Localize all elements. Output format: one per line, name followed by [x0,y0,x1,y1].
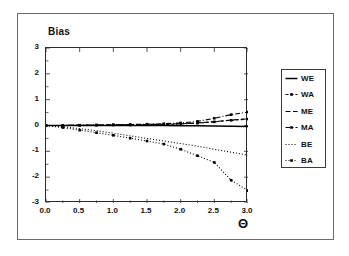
legend-item-we[interactable]: WE [282,70,325,87]
x-tick-label: 2.0 [167,207,193,215]
y-tick-label: 0 [23,121,39,129]
data-point-marker [213,161,216,164]
legend-swatch-me-icon [285,107,298,116]
data-point-marker [213,117,216,120]
data-point-marker [196,154,199,157]
plot-canvas [46,48,248,203]
legend-label: WA [301,90,314,99]
data-point-marker [129,123,132,126]
legend-item-ma[interactable]: MA [282,120,325,137]
data-point-marker [112,123,115,126]
legend-label: WE [301,74,314,83]
data-point-marker [163,143,166,146]
data-point-marker [230,179,233,182]
legend: WEWAMEMABEBA [281,69,326,168]
data-point-marker [95,124,98,127]
legend-item-be[interactable]: BE [282,136,325,153]
plot-area [45,47,247,202]
y-tick-label: 1 [23,95,39,103]
x-tick-label: 3.0 [234,207,260,215]
legend-item-wa[interactable]: WA [282,87,325,104]
data-point-marker [146,123,149,126]
x-tick-label: 0.5 [66,207,92,215]
legend-swatch-wa-icon [285,90,298,99]
y-tick-label: -1 [23,146,39,154]
series-line-ba [46,126,248,191]
legend-label: BA [301,156,313,165]
series-ba [46,124,248,192]
data-point-marker [46,124,47,127]
data-point-marker [179,122,182,125]
y-tick-label: 2 [23,69,39,77]
y-axis-title: Bias [48,26,70,37]
data-point-marker [163,122,166,125]
x-tick-label: 1.0 [99,207,125,215]
legend-item-ba[interactable]: BA [282,153,325,170]
chart-screenshot: Bias Θ 3210-1-2-3 0.00.51.01.52.02.53.0 … [0,0,349,256]
data-point-marker [129,137,132,140]
x-tick-label: 1.5 [133,207,159,215]
y-tick-label: -3 [23,198,39,206]
legend-swatch-be-icon [285,140,298,149]
legend-swatch-we-icon [285,74,298,83]
data-point-marker [78,129,81,132]
data-point-marker [230,113,233,116]
data-point-marker [62,126,65,129]
data-point-marker [196,120,199,123]
legend-item-me[interactable]: ME [282,103,325,120]
x-axis-title: Θ [238,216,248,231]
legend-swatch-ma-icon [285,123,298,132]
data-point-marker [78,124,81,127]
data-point-marker [247,118,248,121]
legend-label: ME [301,107,313,116]
legend-label: MA [301,123,314,132]
data-point-marker [146,140,149,143]
data-point-marker [112,134,115,137]
series-ma [46,111,248,127]
legend-label: BE [301,140,313,149]
y-tick-label: 3 [23,43,39,51]
legend-swatch-ba-icon [285,156,298,165]
data-point-marker [95,131,98,134]
data-point-marker [247,189,248,192]
data-point-marker [179,148,182,151]
data-point-marker [247,111,248,114]
y-tick-label: -2 [23,172,39,180]
x-tick-label: 0.0 [32,207,58,215]
x-tick-label: 2.5 [200,207,226,215]
